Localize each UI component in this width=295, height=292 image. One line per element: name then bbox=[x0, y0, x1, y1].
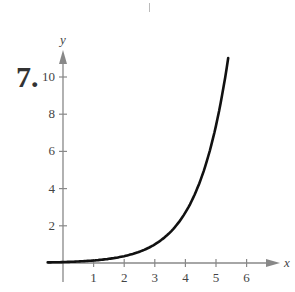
y-axis-arrow-icon bbox=[59, 50, 67, 64]
y-tick-label: 4 bbox=[49, 181, 56, 196]
x-axis-arrow-icon bbox=[266, 259, 280, 267]
curve-line bbox=[48, 58, 229, 262]
y-tick-label: 8 bbox=[49, 106, 56, 121]
x-tick-label: 3 bbox=[152, 270, 159, 285]
y-tick-label: 6 bbox=[49, 143, 56, 158]
x-tick-label: 4 bbox=[182, 270, 189, 285]
x-tick-label: 1 bbox=[90, 270, 97, 285]
y-tick-label: 10 bbox=[42, 69, 55, 84]
x-tick-label: 5 bbox=[213, 270, 220, 285]
x-tick-label: 6 bbox=[243, 270, 250, 285]
x-axis-label: x bbox=[283, 255, 290, 270]
y-tick-label: 2 bbox=[49, 218, 56, 233]
y-axis-label: y bbox=[58, 32, 66, 47]
exponential-graph: 123456 246810 x y bbox=[0, 0, 295, 292]
x-tick-label: 2 bbox=[121, 270, 128, 285]
